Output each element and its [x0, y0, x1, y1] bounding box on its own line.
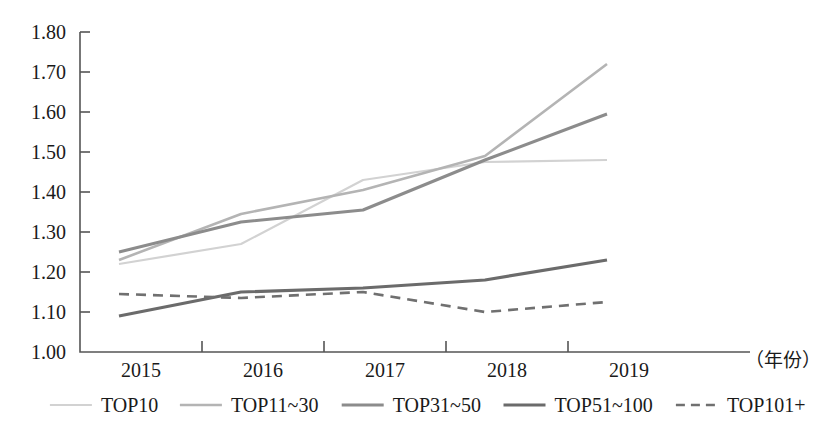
y-axis-tick-label: 1.80	[31, 21, 66, 43]
chart-legend: TOP10TOP11~30TOP31~50TOP51~100TOP101+	[50, 394, 806, 416]
x-axis-tick-marks	[202, 341, 568, 352]
chart-canvas: 1.001.101.201.301.401.501.601.701.80 201…	[0, 0, 839, 440]
legend-label-top10[interactable]: TOP10	[101, 394, 158, 416]
line-chart: 1.001.101.201.301.401.501.601.701.80 201…	[0, 0, 839, 440]
y-axis-tick-label: 1.40	[31, 181, 66, 203]
x-axis-tick-label: 2019	[609, 359, 649, 381]
data-series-group	[119, 64, 607, 316]
y-axis-tick-label: 1.20	[31, 261, 66, 283]
legend-label-top51-100[interactable]: TOP51~100	[555, 394, 653, 416]
y-axis-tick-label: 1.70	[31, 61, 66, 83]
legend-label-top101-[interactable]: TOP101+	[727, 394, 806, 416]
x-axis-tick-label: 2017	[365, 359, 405, 381]
x-axis-tick-label: 2015	[121, 359, 161, 381]
x-axis-tick-label: 2016	[243, 359, 283, 381]
x-axis-tick-label: 2018	[487, 359, 527, 381]
legend-label-top11-30[interactable]: TOP11~30	[231, 394, 319, 416]
y-axis-tick-label: 1.60	[31, 101, 66, 123]
legend-label-top31-50[interactable]: TOP31~50	[393, 394, 481, 416]
y-axis-tick-labels: 1.001.101.201.301.401.501.601.701.80	[31, 21, 66, 363]
y-axis-tick-label: 1.30	[31, 221, 66, 243]
y-axis-tick-label: 1.10	[31, 301, 66, 323]
x-axis-tick-labels: 20152016201720182019	[121, 359, 649, 381]
series-line-top10	[119, 160, 607, 264]
x-axis-unit-label: （年份）	[745, 350, 821, 371]
y-axis-tick-label: 1.00	[31, 341, 66, 363]
y-axis-tick-label: 1.50	[31, 141, 66, 163]
y-axis-tick-marks	[80, 32, 90, 312]
